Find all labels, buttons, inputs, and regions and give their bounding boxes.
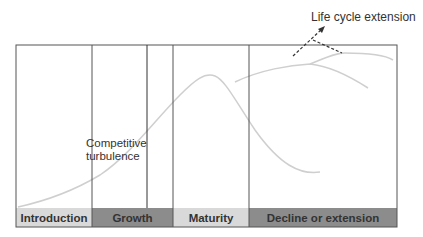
product-life-cycle-diagram [0, 0, 423, 237]
sales-curve [18, 75, 320, 207]
dashed-line [313, 40, 342, 53]
competitive-turbulence-label-1: Competitive [86, 137, 147, 149]
extended-curve [310, 53, 393, 64]
stage-growth-label: Growth [92, 209, 173, 227]
life-cycle-extension-label: Life cycle extension [311, 10, 416, 24]
stage-introduction-label: Introduction [16, 209, 92, 227]
stage-maturity-label: Maturity [173, 209, 249, 227]
stage-decline-label: Decline or extension [249, 209, 397, 227]
competitive-turbulence-label-2: turbulence [86, 150, 140, 162]
extension-curve [235, 64, 368, 88]
